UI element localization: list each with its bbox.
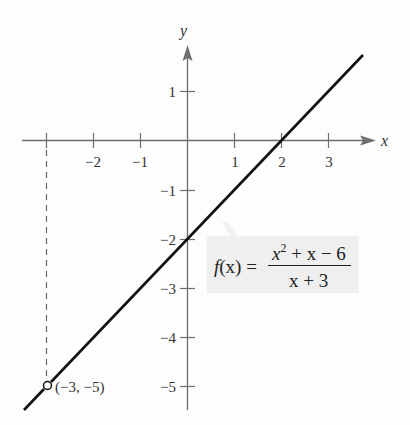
x-tick-label: 3 xyxy=(325,154,333,170)
x-ticks: −2 −1 1 2 3 xyxy=(47,133,333,170)
eq-lhs-arg: (x) = xyxy=(219,256,257,278)
x-tick-label: 2 xyxy=(278,154,286,170)
point-label: (−3, −5) xyxy=(55,379,104,396)
x-axis-label: x xyxy=(380,132,388,149)
y-tick-label: −1 xyxy=(160,183,176,199)
x-axis: x xyxy=(22,132,388,149)
y-ticks: 1 −1 −2 −3 −4 −5 xyxy=(160,84,195,395)
function-graph: x y −2 −1 1 2 3 1 −1 −2 −3 −4 −5 xyxy=(0,0,410,425)
function-line xyxy=(51,55,363,382)
y-tick-label: −2 xyxy=(160,232,176,248)
eq-num-rest: + x − 6 xyxy=(286,243,345,264)
graph-canvas: x y −2 −1 1 2 3 1 −1 −2 −3 −4 −5 xyxy=(0,0,410,425)
y-tick-label: 1 xyxy=(169,84,177,100)
function-line-lower xyxy=(24,389,44,410)
svg-text:f(x) =: f(x) = xyxy=(214,256,257,278)
y-tick-label: −4 xyxy=(160,330,176,346)
eq-denominator: x + 3 xyxy=(289,270,328,291)
y-axis-label: y xyxy=(178,22,188,40)
y-tick-label: −3 xyxy=(160,281,176,297)
equation-label: f(x) = x2 + x − 6 x + 3 xyxy=(207,222,359,293)
x-tick-label: −1 xyxy=(132,154,148,170)
y-axis: y xyxy=(178,22,193,410)
x-tick-label: 1 xyxy=(231,154,239,170)
x-tick-label: −2 xyxy=(85,154,101,170)
y-tick-label: −5 xyxy=(160,379,176,395)
open-point-marker xyxy=(44,382,52,390)
